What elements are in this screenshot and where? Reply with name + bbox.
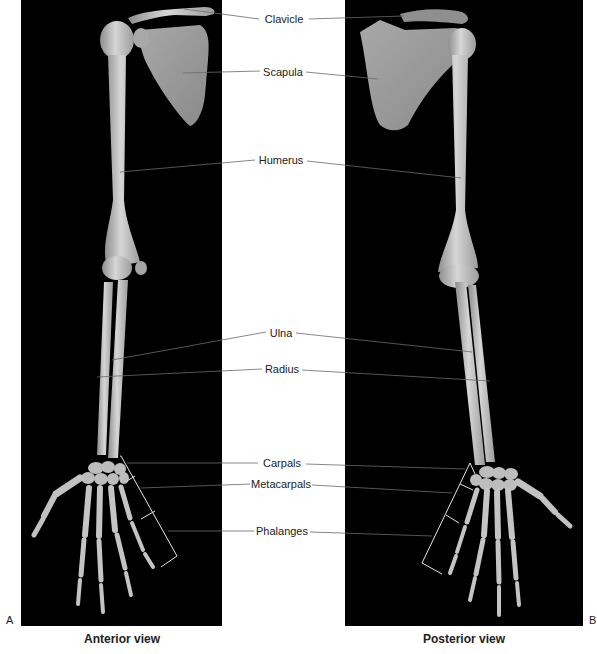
caption-posterior-view: Posterior view [423,632,505,646]
label-ulna: Ulna [269,327,294,339]
figure-artwork [0,0,597,654]
humerus-head-a [100,21,134,59]
caption-anterior-view: Anterior view [84,632,160,646]
label-clavicle: Clavicle [264,13,305,25]
label-metacarpals: Metacarpals [250,478,312,490]
label-humerus: Humerus [258,154,305,166]
skeleton-upper-limb-figure: Clavicle Scapula Humerus Ulna Radius Car… [0,0,597,654]
label-carpals: Carpals [262,457,302,469]
panel-anterior [21,0,222,626]
panel-letter-a: A [6,614,13,626]
panel-letter-b: B [589,614,596,626]
label-scapula: Scapula [262,66,304,78]
panel-posterior [345,0,583,626]
label-radius: Radius [264,363,300,375]
label-phalanges: Phalanges [255,525,309,537]
